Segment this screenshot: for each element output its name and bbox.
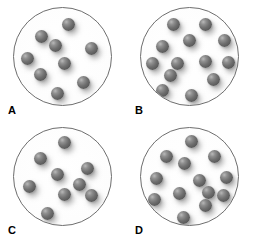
particle-group-a [14, 8, 111, 105]
particle-sphere [193, 174, 206, 187]
vessel-circle-d [140, 127, 239, 226]
particle-sphere [202, 186, 215, 199]
particle-sphere [23, 180, 36, 193]
particle-sphere [218, 34, 231, 47]
particle-sphere [51, 87, 64, 100]
particle-sphere [58, 188, 71, 201]
particle-sphere [207, 73, 220, 86]
particle-sphere [81, 162, 94, 175]
particle-sphere [150, 172, 163, 185]
particle-sphere [199, 55, 212, 68]
particle-group-b [141, 8, 238, 105]
particle-sphere [49, 39, 62, 52]
vessel-circle-a [13, 7, 112, 106]
particle-sphere [171, 57, 184, 70]
panel-label-b: B [135, 104, 143, 116]
particle-sphere [177, 211, 190, 224]
particle-sphere [160, 150, 173, 163]
particle-sphere [185, 135, 198, 148]
particle-sphere [199, 18, 212, 31]
particle-sphere [199, 199, 212, 212]
panel-b: B [127, 0, 254, 120]
particle-sphere [58, 57, 71, 70]
particle-sphere [183, 34, 196, 47]
vessel-circle-c [13, 127, 112, 226]
particle-sphere [85, 189, 98, 202]
particle-sphere [51, 168, 64, 181]
particle-sphere [185, 89, 198, 102]
particle-sphere [73, 178, 86, 191]
particle-sphere [146, 57, 159, 70]
particle-sphere [156, 84, 169, 97]
panel-d: D [127, 120, 254, 240]
panel-label-d: D [135, 224, 143, 236]
particle-sphere [156, 40, 169, 53]
particle-group-d [141, 128, 238, 225]
particle-sphere [85, 42, 98, 55]
particle-sphere [58, 136, 71, 149]
particle-sphere [173, 187, 186, 200]
particle-sphere [35, 30, 48, 43]
particle-sphere [208, 150, 221, 163]
particle-sphere [21, 52, 34, 65]
figure-container: A B C D [0, 0, 254, 241]
panel-label-a: A [8, 104, 16, 116]
particle-sphere [222, 56, 235, 69]
particle-sphere [178, 157, 191, 170]
panel-a: A [0, 0, 127, 120]
particle-sphere [41, 207, 54, 220]
panel-c: C [0, 120, 127, 240]
particle-sphere [148, 193, 161, 206]
vessel-circle-b [140, 7, 239, 106]
particle-sphere [77, 76, 90, 89]
particle-group-c [14, 128, 111, 225]
panel-label-c: C [8, 224, 16, 236]
particle-sphere [220, 171, 233, 184]
particle-sphere [217, 189, 230, 202]
particle-sphere [164, 69, 177, 82]
particle-sphere [34, 68, 47, 81]
particle-sphere [62, 18, 75, 31]
particle-sphere [167, 18, 180, 31]
particle-sphere [34, 152, 47, 165]
